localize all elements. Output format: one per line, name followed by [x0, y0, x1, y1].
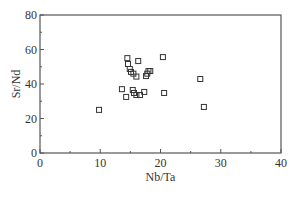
- data-point-square: [201, 104, 206, 109]
- scatter-chart: 010203040020406080Nb/TaSr/Nd: [0, 0, 295, 197]
- y-tick-label: 60: [25, 43, 37, 57]
- x-tick-label: 40: [275, 156, 287, 170]
- data-point-square: [198, 76, 203, 81]
- data-point-square: [125, 61, 130, 66]
- data-point-square: [136, 59, 141, 64]
- y-tick-label: 80: [25, 8, 37, 22]
- x-axis-label: Nb/Ta: [146, 170, 176, 184]
- x-tick-label: 0: [37, 156, 43, 170]
- y-tick-label: 0: [31, 146, 37, 160]
- x-tick-label: 30: [215, 156, 227, 170]
- y-tick-label: 20: [25, 112, 37, 126]
- x-tick-label: 10: [94, 156, 106, 170]
- x-tick-label: 20: [155, 156, 167, 170]
- y-tick-label: 40: [25, 77, 37, 91]
- data-point-square: [162, 90, 167, 95]
- data-point-square: [119, 87, 124, 92]
- plot-frame: [40, 15, 281, 153]
- data-point-square: [160, 55, 165, 60]
- data-point-square: [124, 94, 129, 99]
- data-point-square: [97, 107, 102, 112]
- y-axis-label: Sr/Nd: [9, 70, 23, 99]
- data-point-square: [125, 56, 130, 61]
